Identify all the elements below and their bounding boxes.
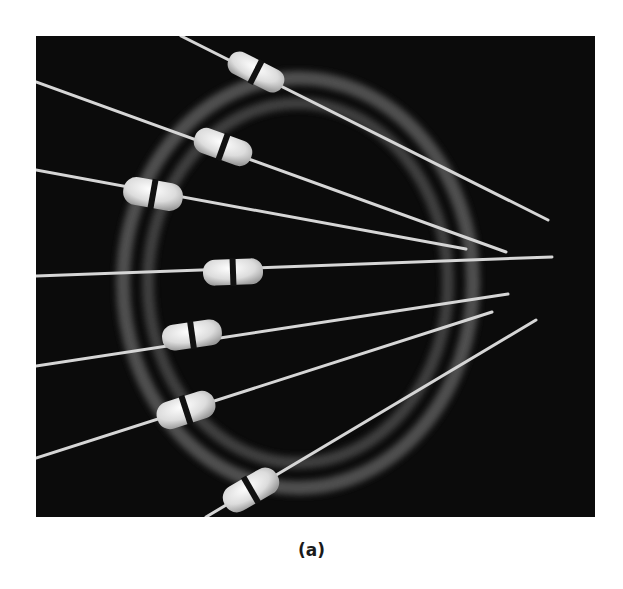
figure-caption: (a) xyxy=(0,540,623,560)
component-4 xyxy=(203,257,264,287)
component-5 xyxy=(160,317,223,353)
components-illustration xyxy=(36,36,595,517)
figure-photo xyxy=(36,36,595,517)
